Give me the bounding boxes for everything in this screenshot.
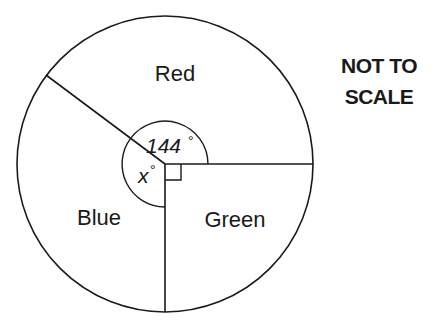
- sector-label-green: Green: [204, 207, 265, 232]
- not-to-scale-note: NOT TO SCALE: [322, 50, 436, 112]
- degree-symbol-144: °: [188, 133, 194, 149]
- degree-symbol-x: °: [150, 162, 156, 178]
- note-line-2: SCALE: [322, 81, 436, 112]
- angle-label-144: 144: [146, 134, 181, 157]
- right-angle-marker: [165, 164, 181, 180]
- angle-label-x: x: [137, 164, 150, 187]
- sector-label-red: Red: [155, 61, 195, 86]
- sector-label-blue: Blue: [77, 205, 121, 230]
- note-line-1: NOT TO: [322, 50, 436, 81]
